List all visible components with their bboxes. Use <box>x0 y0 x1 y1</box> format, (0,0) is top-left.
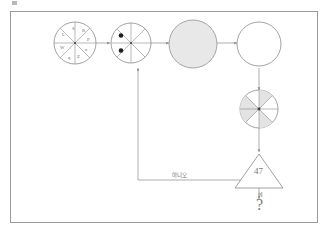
node-wheel-dots[interactable] <box>111 23 151 63</box>
diagram-page: S R P n Z q W L 47 아니오 예 ? <box>0 0 332 241</box>
diagram-canvas <box>0 0 332 241</box>
node-circle-empty[interactable] <box>237 22 281 66</box>
wheel-dot-upper <box>119 33 124 38</box>
node-wheel-lettered[interactable] <box>54 22 96 64</box>
node-circle-shaded[interactable] <box>169 20 217 68</box>
node-wheel-alternating[interactable] <box>240 90 278 128</box>
wheel-dot-lower <box>119 48 124 53</box>
edge-feedback-loop <box>138 68 259 183</box>
node-triangle-decision[interactable] <box>235 154 283 188</box>
